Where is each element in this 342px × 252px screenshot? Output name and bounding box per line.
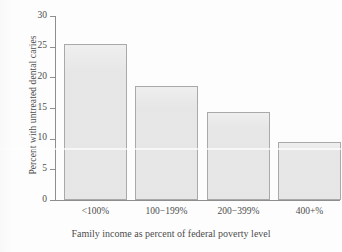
y-tick-label: 10 <box>38 132 48 142</box>
bar-texture <box>208 113 269 199</box>
chart-figure: Percent with untreated dental caries 051… <box>0 0 342 252</box>
x-tick-label-100−199%: 100−199% <box>135 206 198 216</box>
y-tick-label: 25 <box>38 40 48 50</box>
x-axis-line <box>55 200 340 201</box>
y-tick-5: 5 <box>50 169 55 170</box>
x-tick-label-<100%: <100% <box>64 206 127 216</box>
y-tick-20: 20 <box>50 77 55 78</box>
y-tick-15: 15 <box>50 108 55 109</box>
y-tick-label: 20 <box>38 71 48 81</box>
bar-texture <box>279 143 340 199</box>
y-tick-label: 0 <box>42 194 47 204</box>
bar-<100% <box>64 44 127 200</box>
plot-area: 051015202530 <100%100−199%200−399%400+% <box>55 16 340 201</box>
y-axis-title: Percent with untreated dental caries <box>28 10 38 200</box>
x-tick-label-200−399%: 200−399% <box>207 206 270 216</box>
y-tick-label: 15 <box>38 102 48 112</box>
bar-100−199% <box>135 86 198 200</box>
y-tick-10: 10 <box>50 139 55 140</box>
bar-200−399% <box>207 112 270 200</box>
bar-400+% <box>278 142 341 200</box>
bar-texture <box>65 45 126 199</box>
x-axis-title: Family income as percent of federal pove… <box>0 228 342 239</box>
y-axis-line <box>55 16 56 201</box>
y-tick-30: 30 <box>50 16 55 17</box>
y-tick-label: 5 <box>42 163 47 173</box>
y-tick-label: 30 <box>38 10 48 20</box>
bar-texture <box>136 87 197 199</box>
y-tick-0: 0 <box>50 200 55 201</box>
y-tick-25: 25 <box>50 47 55 48</box>
x-tick-label-400+%: 400+% <box>278 206 341 216</box>
